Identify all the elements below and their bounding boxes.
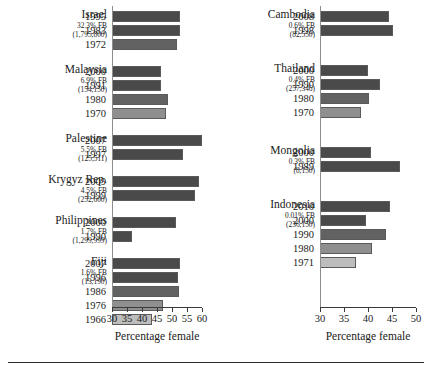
right-panel: Cambodia0.6% FB(82,550)20081998Thailand0…: [216, 0, 432, 366]
axis-tick: [320, 308, 321, 312]
year-label: 2008: [216, 10, 314, 24]
bar-row: 1997: [0, 148, 216, 162]
bar: [320, 201, 390, 212]
bar-row: 1970: [0, 107, 216, 121]
year-label: 1999: [0, 189, 106, 203]
axis-tick: [172, 308, 173, 312]
year-label: 1989: [216, 160, 314, 174]
bar: [320, 257, 356, 268]
bar: [112, 39, 177, 50]
bar-row: 2010: [216, 200, 432, 214]
bar: [320, 107, 361, 118]
year-label: 1980: [216, 242, 314, 256]
bar-row: 1986: [0, 285, 216, 299]
bar: [112, 231, 132, 242]
axis-tick: [187, 308, 188, 312]
axis-tick: [142, 308, 143, 312]
bar: [112, 272, 178, 283]
bar-row: 1980: [216, 242, 432, 256]
bar-row: 1976: [0, 299, 216, 313]
year-label: 2007: [0, 134, 106, 148]
bar-row: 1980: [216, 92, 432, 106]
axis-tick-label: 60: [189, 313, 215, 325]
bar-row: 2000: [0, 65, 216, 79]
bar: [112, 300, 163, 311]
axis-tick: [112, 308, 113, 312]
bar-row: 1972: [0, 38, 216, 52]
year-label: 2010: [216, 200, 314, 214]
axis-tick: [416, 308, 417, 312]
bar: [112, 286, 179, 297]
bar-row: 1989: [216, 160, 432, 174]
year-label: 1986: [0, 285, 106, 299]
bar-row: 1980: [0, 93, 216, 107]
chart-figure: Israel32.3% FB(1,795,800)199519831972Mal…: [0, 0, 432, 366]
bar-row: 1996: [0, 271, 216, 285]
year-label: 2000: [0, 216, 106, 230]
bar: [112, 80, 161, 91]
bar: [320, 215, 366, 226]
bar: [112, 108, 166, 119]
bar-row: 1990: [216, 228, 432, 242]
year-label: 1972: [0, 38, 106, 52]
year-label: 2000: [216, 64, 314, 78]
year-label: 1990: [216, 228, 314, 242]
bar: [320, 25, 393, 36]
axis-tick-label: 30: [307, 313, 333, 325]
bar: [320, 65, 368, 76]
year-label: 1991: [0, 79, 106, 93]
bar: [320, 147, 371, 158]
bar-row: 1995: [0, 10, 216, 24]
left-panel: Israel32.3% FB(1,795,800)199519831972Mal…: [0, 0, 216, 366]
bar: [112, 149, 183, 160]
bar-row: 1990: [216, 78, 432, 92]
year-label: 1990: [216, 78, 314, 92]
bar: [112, 25, 180, 36]
bar: [112, 66, 161, 77]
bar: [112, 258, 180, 269]
year-label: 1983: [0, 24, 106, 38]
bar-row: 1991: [0, 79, 216, 93]
bar: [320, 161, 400, 172]
left-axis-title: Percentage female: [112, 330, 202, 343]
bar-row: 1971: [216, 256, 432, 270]
axis-tick-label: 50: [403, 313, 429, 325]
bar-row: 2000: [216, 146, 432, 160]
year-label: 2009: [0, 175, 106, 189]
year-label: 2000: [0, 65, 106, 79]
right-axis-title: Percentage female: [320, 330, 416, 343]
bar-row: 2000: [0, 216, 216, 230]
bar: [112, 190, 195, 201]
year-label: 1997: [0, 148, 106, 162]
year-label: 2007: [0, 257, 106, 271]
bar-row: 2007: [0, 257, 216, 271]
year-label: 1980: [0, 93, 106, 107]
left-panel-baseline: [112, 6, 113, 307]
axis-tick: [344, 308, 345, 312]
bar-row: 1970: [216, 106, 432, 120]
axis-tick-label: 40: [355, 313, 381, 325]
bar-row: 1998: [216, 24, 432, 38]
bar: [112, 176, 199, 187]
year-label: 2000: [216, 214, 314, 228]
bar: [320, 79, 380, 90]
year-label: 1990: [0, 230, 106, 244]
bar-row: 2000: [216, 64, 432, 78]
bar-row: 1983: [0, 24, 216, 38]
axis-tick: [392, 308, 393, 312]
bar-row: 2007: [0, 134, 216, 148]
bar: [112, 11, 180, 22]
bar: [112, 94, 168, 105]
year-label: 1966: [0, 313, 106, 327]
right-panel-baseline: [320, 6, 321, 307]
bar: [320, 93, 369, 104]
axis-tick: [127, 308, 128, 312]
bar-row: 1990: [0, 230, 216, 244]
year-label: 1995: [0, 10, 106, 24]
bar-row: 1999: [0, 189, 216, 203]
axis-tick-label: 45: [379, 313, 405, 325]
bar-row: 2008: [216, 10, 432, 24]
year-label: 1971: [216, 256, 314, 270]
year-label: 1996: [0, 271, 106, 285]
year-label: 1976: [0, 299, 106, 313]
